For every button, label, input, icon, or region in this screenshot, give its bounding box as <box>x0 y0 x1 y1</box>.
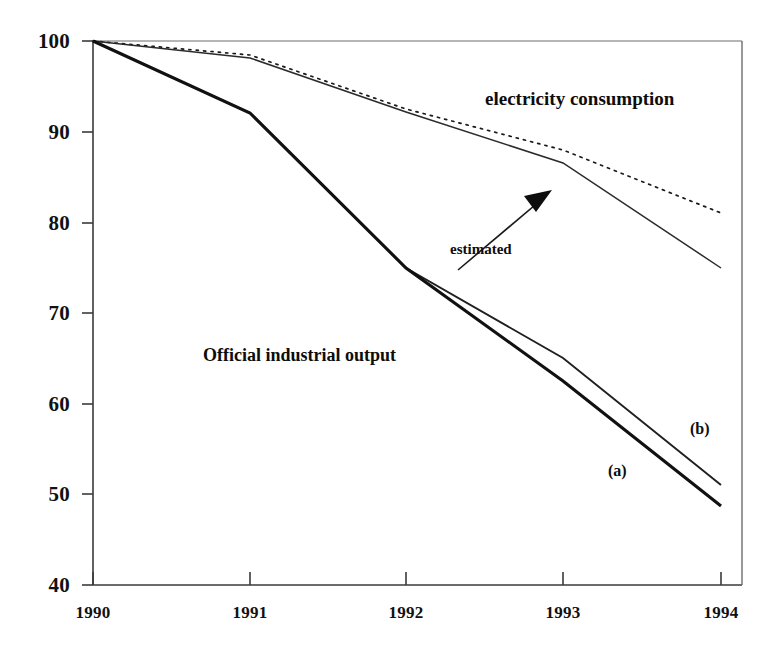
chart-figure: 100 90 80 70 60 50 40 1990 1991 1992 199… <box>0 0 778 658</box>
x-axis-ticks <box>93 572 721 585</box>
y-tick-label-60: 60 <box>8 392 70 417</box>
y-tick-label-40: 40 <box>8 573 70 598</box>
x-tick-label-1992: 1992 <box>389 603 424 623</box>
x-tick-label-1990: 1990 <box>76 603 111 623</box>
y-tick-label-70: 70 <box>8 301 70 326</box>
series-electricity-solid <box>93 41 721 268</box>
annotation-estimated: estimated <box>450 241 512 258</box>
x-tick-label-1991: 1991 <box>233 603 268 623</box>
annotation-series-b: (b) <box>690 420 710 438</box>
annotation-series-a: (a) <box>608 462 627 480</box>
x-tick-label-1994: 1994 <box>704 603 739 623</box>
y-tick-label-100: 100 <box>8 29 70 54</box>
axis-frame <box>93 41 742 585</box>
series-electricity-dotted <box>93 41 721 213</box>
y-axis-ticks <box>82 41 93 585</box>
annotation-official-industrial-output: Official industrial output <box>203 345 396 366</box>
annotation-electricity-consumption: electricity consumption <box>485 88 674 110</box>
estimated-arrow <box>458 190 552 270</box>
y-tick-label-90: 90 <box>8 120 70 145</box>
series-official-output-a <box>93 41 721 506</box>
y-tick-label-50: 50 <box>8 482 70 507</box>
x-tick-label-1993: 1993 <box>546 603 581 623</box>
y-tick-label-80: 80 <box>8 211 70 236</box>
